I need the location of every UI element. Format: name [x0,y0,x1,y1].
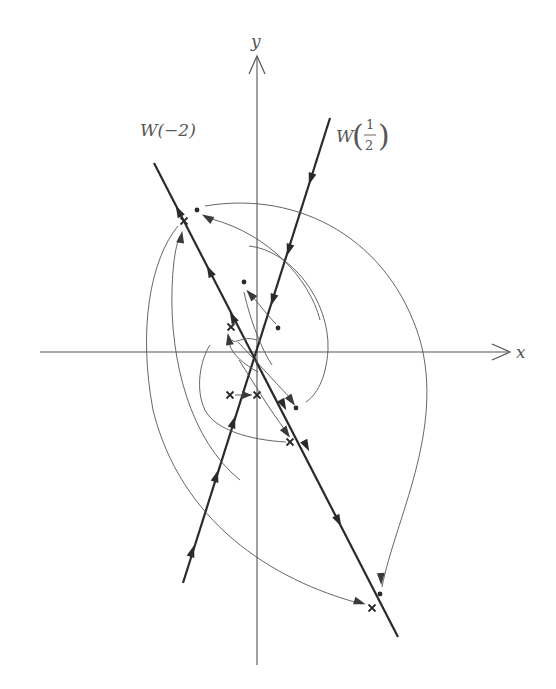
svg-text:): ) [378,118,390,153]
arrow-icon [305,172,316,186]
arrow-icon [267,293,278,307]
dot-marker [378,592,383,597]
svg-text:1: 1 [366,117,374,132]
cross-marker [227,392,234,399]
svg-text:2: 2 [365,138,373,153]
arrow-icon [332,514,345,528]
arrow-icon [228,415,239,429]
arrow-icon [203,264,216,278]
arrow-icon [172,204,185,218]
cross-marker [287,439,294,446]
arrow-icon [211,469,222,483]
cross-marker [369,605,376,612]
x-axis: x [40,342,526,362]
w-half-label: W ( 1 2 ) [336,117,390,153]
arrow-icon [187,544,198,558]
dot-marker [276,326,281,331]
dot-marker [294,406,299,411]
saddle-phase-diagram: x y W(−2) W ( 1 2 ) [0,0,556,689]
w-minus2-label: W(−2) [140,120,196,140]
x-axis-label: x [516,342,526,362]
dot-marker [242,280,247,285]
dot-markers [195,208,383,597]
y-axis-label: y [250,31,261,51]
dot-marker [195,208,200,213]
svg-text:(: ( [352,118,364,153]
arrow-icon [283,243,294,257]
cross-marker [228,324,235,331]
trajectories [146,203,426,608]
w-minus2-line [154,163,398,637]
